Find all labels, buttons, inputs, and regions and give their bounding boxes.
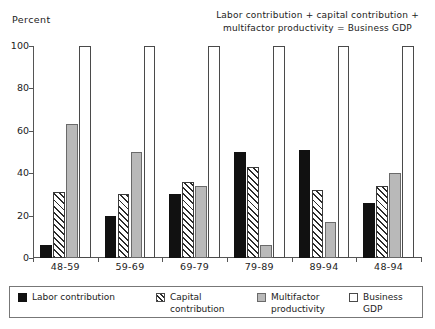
bar-gdp-48-94[interactable]	[402, 46, 414, 258]
bar-capital-48-94[interactable]	[376, 186, 388, 258]
y-axis-tick-label: 60	[17, 125, 29, 136]
legend-item-multifactor[interactable]: Multifactor productivity	[257, 292, 325, 315]
chart-annotation: Labor contribution + capital contributio…	[205, 9, 430, 34]
x-axis-label-69-79: 69-79	[162, 261, 227, 272]
bar-labor-79-89[interactable]	[234, 152, 246, 258]
legend-label-labor: Labor contribution	[32, 292, 115, 304]
bar-capital-69-79[interactable]	[182, 182, 194, 258]
y-axis-tick-label: 80	[17, 82, 29, 93]
legend-label-multifactor: Multifactor productivity	[271, 292, 325, 315]
bar-capital-59-69[interactable]	[118, 194, 130, 258]
plot-area	[33, 46, 421, 258]
chart-legend: Labor contributionCapital contributionMu…	[9, 286, 423, 318]
x-axis-label-59-69: 59-69	[98, 261, 163, 272]
legend-swatch-gdp-icon	[349, 293, 358, 302]
bar-gdp-69-79[interactable]	[208, 46, 220, 258]
bar-gdp-59-69[interactable]	[144, 46, 156, 258]
y-axis-tick-label: 40	[17, 167, 29, 178]
bar-group	[162, 46, 227, 258]
bar-multifactor-89-94[interactable]	[325, 222, 337, 258]
bar-multifactor-79-89[interactable]	[260, 245, 272, 258]
legend-item-capital[interactable]: Capital contribution	[156, 292, 225, 315]
legend-item-gdp[interactable]: Business GDP	[349, 292, 422, 315]
bar-gdp-48-59[interactable]	[79, 46, 91, 258]
legend-swatch-labor-icon	[18, 293, 27, 302]
legend-item-labor[interactable]: Labor contribution	[18, 292, 115, 304]
bar-group	[356, 46, 421, 258]
x-axis-tick	[421, 257, 422, 262]
bar-capital-79-89[interactable]	[247, 167, 259, 258]
bar-multifactor-69-79[interactable]	[195, 186, 207, 258]
bar-group	[227, 46, 292, 258]
x-axis-category-labels: 48-5959-6969-7979-8989-9448-94	[33, 261, 421, 277]
bar-capital-89-94[interactable]	[312, 190, 324, 258]
y-axis-tick-labels: 020406080100	[0, 46, 29, 258]
bar-labor-48-94[interactable]	[363, 203, 375, 258]
legend-label-capital: Capital contribution	[170, 292, 225, 315]
legend-swatch-multifactor-icon	[257, 293, 266, 302]
y-axis-tick-label: 100	[11, 40, 29, 51]
bar-multifactor-48-59[interactable]	[66, 124, 78, 258]
bar-multifactor-48-94[interactable]	[389, 173, 401, 258]
bar-multifactor-59-69[interactable]	[131, 152, 143, 258]
x-axis-label-79-89: 79-89	[227, 261, 292, 272]
bar-labor-69-79[interactable]	[169, 194, 181, 258]
bar-capital-48-59[interactable]	[53, 192, 65, 258]
x-axis-label-89-94: 89-94	[292, 261, 357, 272]
x-axis-label-48-94: 48-94	[356, 261, 421, 272]
bar-gdp-89-94[interactable]	[338, 46, 350, 258]
bar-labor-89-94[interactable]	[299, 150, 311, 258]
chart-root: Percent Labor contribution + capital con…	[0, 0, 435, 329]
y-axis-title: Percent	[12, 14, 51, 25]
bar-gdp-79-89[interactable]	[273, 46, 285, 258]
legend-label-gdp: Business GDP	[363, 292, 422, 315]
bar-labor-48-59[interactable]	[40, 245, 52, 258]
bar-group	[33, 46, 98, 258]
y-axis-tick-label: 20	[17, 210, 29, 221]
legend-swatch-capital-icon	[156, 293, 165, 302]
x-axis-label-48-59: 48-59	[33, 261, 98, 272]
bar-labor-59-69[interactable]	[105, 216, 117, 258]
bar-group	[98, 46, 163, 258]
bar-group	[292, 46, 357, 258]
